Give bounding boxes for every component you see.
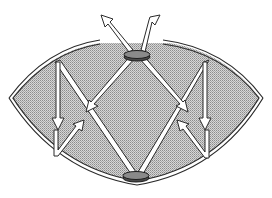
diagram-canvas: Lens-shaped cavity with two disc element…	[0, 0, 272, 198]
cavity-diagram	[0, 0, 272, 198]
top-disc	[124, 51, 150, 62]
bottom-disc	[123, 172, 149, 183]
